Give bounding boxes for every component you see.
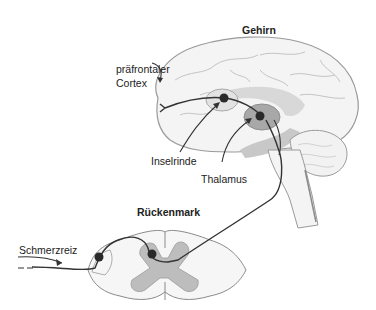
pain-pathway-diagram: Gehirn präfrontaler Cortex Inselrinde Th… (0, 0, 376, 310)
brain-illustration (156, 37, 358, 228)
drg-neuron (95, 253, 104, 262)
prefrontal-cortex-label-line1: präfrontaler (116, 63, 170, 75)
spinal-cord-title: Rückenmark (137, 206, 200, 218)
insula-label: Inselrinde (151, 155, 197, 167)
thalamus-label: Thalamus (201, 173, 247, 185)
thalamus-neuron (256, 112, 265, 121)
stimulus-label: Schmerzreiz (19, 244, 77, 256)
brain-title: Gehirn (242, 24, 276, 36)
spinal-cord-illustration (88, 230, 246, 300)
prefrontal-cortex-label-line2: Cortex (116, 77, 147, 89)
prefrontal-neuron (220, 94, 229, 103)
dorsal-horn-neuron (148, 250, 157, 259)
